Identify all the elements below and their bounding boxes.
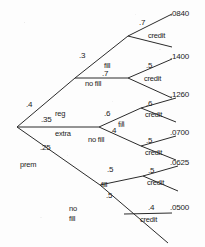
label-prem-fill-branch: fill [101, 181, 107, 189]
label-credit-3-probability: .6 [146, 100, 152, 108]
label-reg-nofill-probability: .7 [102, 70, 108, 78]
label-reg-probability: .4 [26, 101, 32, 109]
label-credit-5-probability: .5 [148, 167, 154, 175]
label-prem-fill-probability: .5 [107, 166, 113, 174]
label-credit-6: credit [140, 216, 157, 224]
label-reg-fill-probability: .3 [79, 52, 85, 60]
outcome-1: .0840 [170, 10, 189, 18]
label-credit-2: credit [144, 75, 161, 83]
probability-tree-diagram: .4 reg .35 extra .25 prem .3 fill .7 no … [0, 0, 205, 247]
label-prem-nofill-branch-line1: no [69, 205, 77, 213]
branch-extra-nofill [99, 127, 141, 146]
label-credit-4-probability: .5 [146, 137, 152, 145]
label-credit-1: credit [148, 32, 165, 40]
label-credit-2-probability: .5 [146, 62, 152, 70]
label-extra-nofill-probability: .4 [110, 127, 116, 135]
outcome-2: .1400 [170, 53, 189, 61]
label-credit-1-probability: .7 [139, 19, 145, 27]
label-extra-nofill-branch: no fill [88, 136, 104, 144]
outcome-3: .1260 [170, 91, 189, 99]
label-reg-nofill-branch: no fill [85, 80, 101, 88]
label-credit-4: credit [145, 149, 162, 157]
branch-premnofill-credit [124, 213, 172, 214]
label-prem-nofill-branch-line2: fill [69, 215, 75, 223]
label-credit-5: credit [147, 179, 164, 187]
outcome-4: .0700 [170, 129, 189, 137]
label-prem-probability: .25 [40, 144, 51, 152]
label-extra-branch: extra [55, 130, 71, 138]
label-prem-nofill-probability: .5 [106, 192, 112, 200]
label-extra-fill-branch: fill [118, 121, 125, 129]
label-credit-3: credit [145, 111, 162, 119]
label-reg-branch: reg [55, 110, 65, 118]
label-extra-probability: .35 [41, 116, 52, 124]
label-extra-fill-probability: .6 [104, 110, 110, 118]
outcome-5: .0625 [170, 159, 189, 167]
outcome-6: .0500 [170, 204, 189, 212]
label-credit-6-probability: .4 [148, 204, 154, 212]
label-prem-branch: prem [20, 161, 36, 169]
